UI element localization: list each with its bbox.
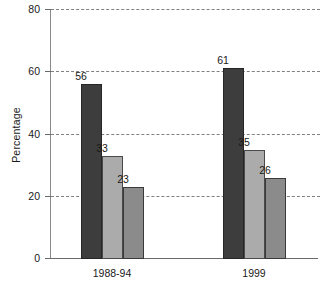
bar-group2-series1[interactable]: [223, 68, 244, 259]
plot-area: [51, 9, 320, 259]
bar-group1-series3[interactable]: [123, 187, 144, 259]
gridline-60: [51, 71, 320, 72]
y-tick-label-0: 0: [0, 253, 40, 264]
bar-value-group1-series2: 33: [92, 143, 112, 154]
bar-value-group1-series1: 56: [71, 71, 91, 82]
y-tick-label-80: 80: [0, 4, 40, 15]
x-axis-label-group1: 1988-94: [72, 268, 152, 279]
y-tick-label-60: 60: [0, 66, 40, 77]
bar-group1-series2[interactable]: [102, 156, 123, 259]
gridline-80: [51, 9, 320, 10]
bar-group2-series3[interactable]: [265, 178, 286, 259]
bar-chart: Percentage 80 60 40 20 0 56 33 23 61 35 …: [0, 0, 328, 289]
y-tick-label-40: 40: [0, 129, 40, 140]
bar-value-group2-series3: 26: [255, 165, 275, 176]
y-tick-label-20: 20: [0, 191, 40, 202]
bar-value-group1-series3: 23: [113, 174, 133, 185]
bar-group1-series1[interactable]: [81, 84, 102, 259]
bar-value-group2-series1: 61: [213, 55, 233, 66]
bar-value-group2-series2: 35: [234, 137, 254, 148]
x-axis-label-group2: 1999: [214, 268, 294, 279]
